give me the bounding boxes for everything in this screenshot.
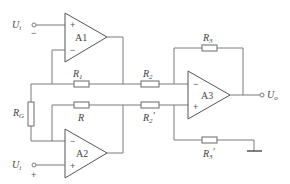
resistor-r [74, 102, 89, 108]
opamp-a2: − + A2 [65, 129, 107, 178]
r1-label: R1 [72, 68, 83, 81]
a1-label: A1 [75, 32, 87, 43]
a2-plus-sign: + [70, 161, 75, 171]
opamp-a3: − + A3 [188, 71, 230, 119]
input-plus-label: Ui [12, 159, 21, 172]
a1-minus-sign: − [70, 45, 75, 55]
a3-plus-sign: + [193, 102, 198, 112]
r2-label: R2 [142, 68, 153, 81]
opamp-a1: + − A1 [65, 13, 107, 62]
r3-prime-label: R3′ [202, 146, 216, 161]
instrumentation-amplifier-circuit: Ui − + − A1 R1 RG R − + A2 Ui + R2 R2′ [0, 0, 290, 184]
input-minus-label: Ui [12, 19, 21, 32]
resistor-r3-prime [202, 137, 217, 143]
resistor-rg [28, 102, 34, 126]
r3-label: R3 [202, 32, 213, 45]
input-minus-sign: − [31, 28, 36, 38]
a1-plus-sign: + [70, 20, 75, 30]
a3-minus-sign: − [193, 79, 198, 89]
output-terminal [260, 93, 264, 97]
r-label: R [77, 112, 84, 123]
resistor-r2-prime [141, 102, 159, 108]
a2-minus-sign: − [70, 136, 75, 146]
rg-label: RG [12, 107, 24, 120]
input-plus-terminal: Ui + [12, 159, 65, 180]
r2-prime-label: R2′ [142, 110, 156, 125]
resistor-r1 [74, 81, 89, 87]
output-label: Uo [267, 89, 278, 102]
input-plus-sign: + [31, 170, 36, 180]
a3-label: A3 [201, 90, 213, 101]
a2-label: A2 [76, 148, 88, 159]
input-minus-terminal: Ui − [12, 19, 65, 38]
resistor-r2 [141, 81, 159, 87]
resistor-r3 [202, 45, 217, 51]
